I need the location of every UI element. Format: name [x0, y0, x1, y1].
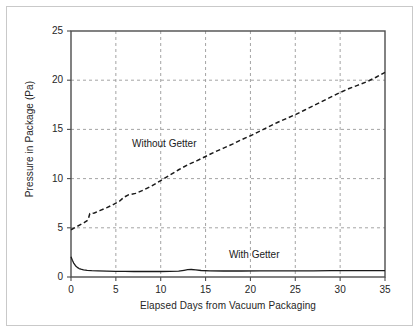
x-axis-title: Elapsed Days from Vacuum Packaging — [140, 300, 316, 311]
y-tick-label: 5 — [39, 222, 63, 233]
y-tick-label: 10 — [39, 173, 63, 184]
x-axis-title-wrapper: Elapsed Days from Vacuum Packaging — [71, 295, 385, 313]
series-annotation-with-getter: With Getter — [229, 249, 280, 260]
series-annotation-without-getter: Without Getter — [132, 138, 196, 149]
y-axis-title: Pressure in Package (Pa) — [24, 81, 35, 197]
y-tick-label: 20 — [39, 74, 63, 85]
x-tick-label: 20 — [238, 284, 262, 295]
y-tick-label: 15 — [39, 123, 63, 134]
chart-figure: 0510152025 05101520253035 Pressure in Pa… — [0, 0, 419, 332]
plot-area-border — [71, 31, 385, 277]
y-tick-label: 25 — [39, 25, 63, 36]
x-tick-label: 5 — [104, 284, 128, 295]
plot-canvas — [0, 0, 419, 332]
x-tick-label: 35 — [373, 284, 397, 295]
tick-marks — [67, 31, 385, 281]
x-tick-label: 25 — [283, 284, 307, 295]
x-tick-label: 0 — [59, 284, 83, 295]
y-axis-title-wrapper: Pressure in Package (Pa) — [19, 39, 37, 239]
gridlines — [71, 31, 385, 277]
y-tick-label: 0 — [39, 271, 63, 282]
data-series-layer — [71, 72, 385, 271]
series-line-without-getter — [71, 72, 385, 229]
x-tick-label: 15 — [194, 284, 218, 295]
x-tick-label: 10 — [149, 284, 173, 295]
x-tick-label: 30 — [328, 284, 352, 295]
